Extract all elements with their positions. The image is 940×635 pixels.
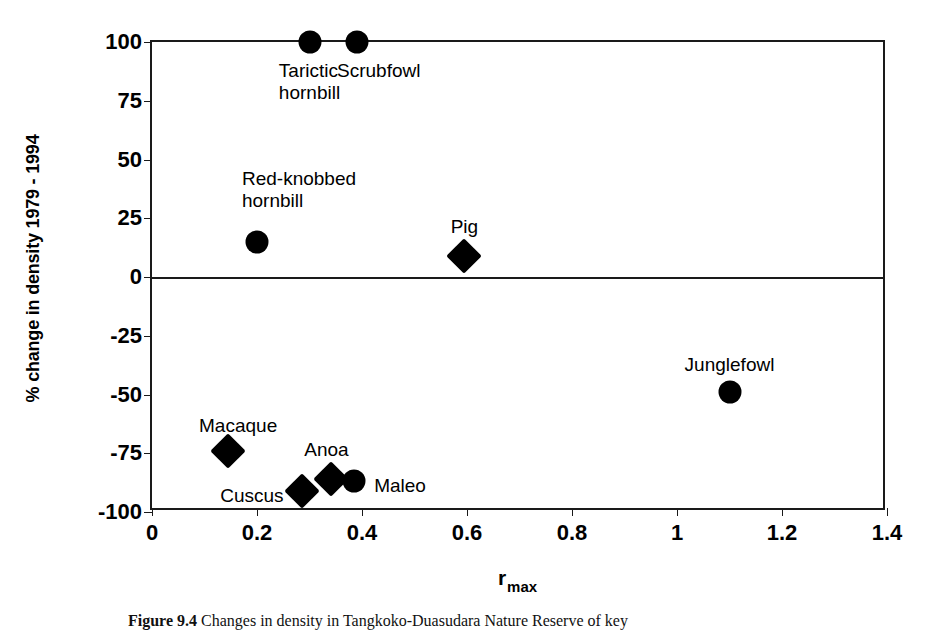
x-tick-mark — [152, 508, 153, 516]
data-point-red-knobbed-hornbill[interactable] — [246, 230, 269, 253]
data-point-macaque[interactable] — [210, 433, 245, 468]
figure-caption-text: Changes in density in Tangkoko-Duasudara… — [201, 612, 628, 629]
x-tick-label: 0 — [146, 520, 158, 546]
x-tick-mark — [572, 508, 573, 516]
y-tick-label: -100 — [98, 499, 142, 525]
x-tick-mark — [467, 508, 468, 516]
point-label-junglefowl: Junglefowl — [685, 354, 775, 376]
y-tick-label: 100 — [105, 29, 142, 55]
y-tick-mark — [144, 218, 152, 219]
y-axis-title: % change in density 1979 - 1994 — [23, 54, 44, 484]
y-tick-label: -25 — [110, 323, 142, 349]
point-label-pig: Pig — [451, 216, 478, 238]
zero-reference-line — [152, 277, 883, 279]
point-label-cuscus: Cuscus — [220, 485, 283, 507]
data-point-scrubfowl[interactable] — [345, 31, 368, 54]
data-point-junglefowl[interactable] — [718, 381, 741, 404]
data-point-pig[interactable] — [447, 238, 482, 273]
x-tick-label: 1.4 — [872, 520, 903, 546]
point-label-red-knobbed-hornbill: Red-knobbed hornbill — [242, 168, 356, 212]
x-tick-mark — [677, 508, 678, 516]
plot-area: 1007550250-25-50-75-10000.20.40.60.811.2… — [150, 40, 885, 510]
x-axis-title: rmax — [150, 566, 885, 595]
x-tick-label: 0.4 — [347, 520, 378, 546]
point-label-macaque: Macaque — [199, 415, 277, 437]
y-tick-label: 75 — [118, 88, 142, 114]
x-tick-label: 0.6 — [452, 520, 483, 546]
point-label-scrubfowl: Scrubfowl — [337, 60, 420, 82]
y-tick-label: -75 — [110, 440, 142, 466]
x-tick-label: 1.2 — [767, 520, 798, 546]
y-tick-mark — [144, 277, 152, 278]
x-axis-title-main: r — [498, 566, 506, 589]
point-label-tarictic-hornbill: Tarictic hornbill — [279, 60, 340, 104]
point-label-maleo: Maleo — [374, 475, 426, 497]
y-tick-label: 0 — [130, 264, 142, 290]
figure-caption: Figure 9.4 Changes in density in Tangkok… — [128, 612, 928, 630]
y-tick-mark — [144, 395, 152, 396]
x-axis-title-subscript: max — [507, 578, 537, 595]
data-point-tarictic-hornbill[interactable] — [298, 31, 321, 54]
y-tick-mark — [144, 512, 152, 513]
x-tick-mark — [257, 508, 258, 516]
y-tick-label: -50 — [110, 382, 142, 408]
y-tick-mark — [144, 101, 152, 102]
figure-caption-label: Figure 9.4 — [128, 612, 197, 629]
y-tick-label: 50 — [118, 147, 142, 173]
x-tick-label: 1 — [671, 520, 683, 546]
x-tick-label: 0.2 — [242, 520, 273, 546]
y-tick-mark — [144, 336, 152, 337]
x-tick-mark — [782, 508, 783, 516]
y-tick-label: 25 — [118, 205, 142, 231]
y-tick-mark — [144, 42, 152, 43]
x-tick-mark — [887, 508, 888, 516]
y-tick-mark — [144, 453, 152, 454]
x-tick-mark — [362, 508, 363, 516]
x-tick-label: 0.8 — [557, 520, 588, 546]
figure-container: % change in density 1979 - 1994 10075502… — [0, 0, 940, 635]
point-label-anoa: Anoa — [304, 439, 348, 461]
y-tick-mark — [144, 160, 152, 161]
data-point-maleo[interactable] — [343, 470, 366, 493]
